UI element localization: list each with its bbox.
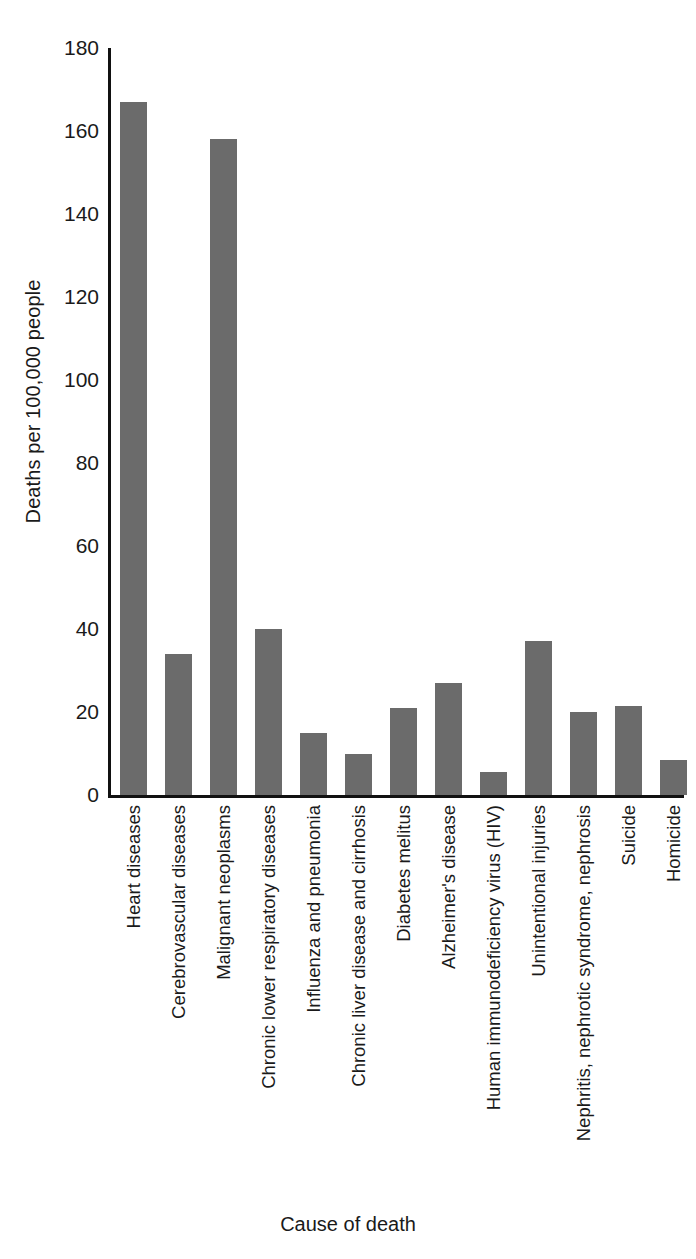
x-axis-line	[108, 795, 684, 798]
x-tick-label: Influenza and pneumonia	[300, 801, 327, 1201]
x-tick-label-text: Chronic lower respiratory diseases	[259, 805, 278, 1089]
x-axis-title: Cause of death	[0, 1213, 696, 1236]
x-tick-label: Chronic lower respiratory diseases	[255, 801, 282, 1201]
y-tick-label: 120	[64, 285, 99, 309]
x-tick-label-text: Heart diseases	[124, 805, 143, 928]
x-tick-label: Homicide	[660, 801, 687, 1201]
x-tick-label-text: Alzheimer's disease	[439, 805, 458, 969]
x-tick-label: Chronic liver disease and cirrhosis	[345, 801, 372, 1201]
bar	[660, 760, 687, 795]
bar	[615, 706, 642, 795]
x-tick-label-text: Influenza and pneumonia	[304, 805, 323, 1013]
plot-area: 180160140120100806040200	[110, 48, 688, 795]
x-axis-category-labels: Heart diseasesCerebrovascular diseasesMa…	[110, 801, 688, 1201]
x-tick-label-text: Chronic liver disease and cirrhosis	[349, 805, 368, 1087]
x-tick-label-text: Human immunodeficiency virus (HIV)	[484, 805, 503, 1110]
bar	[345, 754, 372, 796]
x-tick-label: Alzheimer's disease	[435, 801, 462, 1201]
x-tick-label: Diabetes melitus	[390, 801, 417, 1201]
x-tick-label-text: Nephritis, nephrotic syndrome, nephrosis	[574, 805, 593, 1141]
bar	[300, 733, 327, 795]
y-tick-label: 80	[76, 451, 99, 475]
y-tick-label: 180	[64, 36, 99, 60]
x-tick-label-text: Malignant neoplasms	[214, 805, 233, 980]
bar-series	[110, 48, 688, 795]
bar	[210, 139, 237, 795]
x-tick-label-text: Unintentional injuries	[529, 805, 548, 977]
y-tick-label: 140	[64, 202, 99, 226]
y-tick-label: 160	[64, 119, 99, 143]
bar	[570, 712, 597, 795]
x-tick-label: Suicide	[615, 801, 642, 1201]
y-tick-label: 20	[76, 700, 99, 724]
bar	[435, 683, 462, 795]
x-tick-label: Cerebrovascular diseases	[165, 801, 192, 1201]
y-tick-label: 40	[76, 617, 99, 641]
bar	[480, 772, 507, 795]
x-tick-label: Heart diseases	[120, 801, 147, 1201]
x-tick-label-text: Suicide	[619, 805, 638, 866]
bar	[525, 641, 552, 795]
x-tick-label-text: Diabetes melitus	[394, 805, 413, 942]
x-tick-label: Unintentional injuries	[525, 801, 552, 1201]
bar	[390, 708, 417, 795]
bar	[120, 102, 147, 795]
x-tick-label-text: Cerebrovascular diseases	[169, 805, 188, 1019]
x-tick-label-text: Homicide	[664, 805, 683, 882]
y-tick-label: 0	[87, 783, 99, 807]
x-tick-label: Nephritis, nephrotic syndrome, nephrosis	[570, 801, 597, 1201]
bar	[165, 654, 192, 795]
x-tick-label: Malignant neoplasms	[210, 801, 237, 1201]
bar-chart-figure: Deaths per 100,000 people 18016014012010…	[0, 0, 696, 1259]
x-tick-label: Human immunodeficiency virus (HIV)	[480, 801, 507, 1201]
y-axis-title: Deaths per 100,000 people	[22, 252, 45, 552]
y-tick-label: 100	[64, 368, 99, 392]
y-tick-label: 60	[76, 534, 99, 558]
bar	[255, 629, 282, 795]
